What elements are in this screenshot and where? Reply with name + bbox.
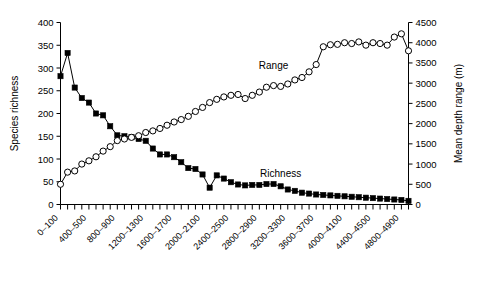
y-tick-label-right: 4000 bbox=[416, 37, 437, 48]
data-point-marker bbox=[349, 40, 355, 46]
data-point-marker bbox=[221, 94, 227, 100]
series-annotation-range: Range bbox=[259, 60, 289, 71]
data-point-marker bbox=[328, 193, 333, 198]
y-tick-label-left: 400 bbox=[38, 17, 54, 28]
data-point-marker bbox=[207, 99, 213, 105]
data-point-marker bbox=[150, 128, 156, 134]
data-point-marker bbox=[285, 187, 290, 192]
data-point-marker bbox=[370, 196, 375, 201]
data-point-marker bbox=[320, 44, 326, 50]
data-point-marker bbox=[278, 184, 283, 189]
x-tick-label: 400–500 bbox=[56, 213, 88, 245]
y-tick-label-right: 4500 bbox=[416, 17, 437, 28]
data-point-marker bbox=[143, 129, 149, 135]
species-richness-depth-range-chart: 0501001502002503003504000500100015002000… bbox=[0, 0, 479, 281]
data-point-marker bbox=[57, 181, 63, 187]
y-tick-label-left: 50 bbox=[43, 176, 54, 187]
data-point-marker bbox=[334, 41, 340, 47]
data-point-marker bbox=[256, 89, 262, 95]
y-tick-label-right: 3000 bbox=[416, 78, 437, 89]
data-point-marker bbox=[65, 169, 71, 175]
data-point-marker bbox=[363, 42, 369, 48]
data-point-marker bbox=[235, 182, 240, 187]
data-point-marker bbox=[164, 152, 169, 157]
data-point-marker bbox=[235, 91, 241, 97]
data-point-marker bbox=[264, 181, 269, 186]
data-point-marker bbox=[278, 83, 284, 89]
data-point-marker bbox=[101, 113, 106, 118]
y-tick-label-right: 500 bbox=[416, 179, 432, 190]
data-point-marker bbox=[207, 185, 212, 190]
y-tick-label-left: 150 bbox=[38, 131, 54, 142]
y-tick-label-right: 2000 bbox=[416, 118, 437, 129]
data-point-marker bbox=[299, 74, 305, 80]
data-point-marker bbox=[221, 176, 226, 181]
data-point-marker bbox=[405, 48, 411, 54]
data-point-marker bbox=[243, 183, 248, 188]
data-point-marker bbox=[313, 61, 319, 67]
y-tick-label-left: 250 bbox=[38, 85, 54, 96]
data-point-marker bbox=[341, 40, 347, 46]
data-point-marker bbox=[271, 181, 276, 186]
y-tick-label-left: 0 bbox=[48, 199, 53, 210]
data-point-marker bbox=[306, 191, 311, 196]
data-point-marker bbox=[306, 69, 312, 75]
y-tick-label-right: 0 bbox=[416, 199, 421, 210]
series-line-range bbox=[61, 34, 409, 184]
data-point-marker bbox=[185, 113, 191, 119]
data-point-marker bbox=[335, 193, 340, 198]
data-point-marker bbox=[199, 104, 205, 110]
data-point-marker bbox=[86, 158, 92, 164]
data-point-marker bbox=[136, 133, 142, 139]
data-point-marker bbox=[263, 84, 269, 90]
data-point-marker bbox=[250, 182, 255, 187]
data-point-marker bbox=[377, 40, 383, 46]
data-point-marker bbox=[214, 173, 219, 178]
data-point-marker bbox=[108, 124, 113, 129]
data-point-marker bbox=[377, 196, 382, 201]
data-point-marker bbox=[186, 166, 191, 171]
series-markers-richness bbox=[58, 50, 411, 203]
data-point-marker bbox=[257, 182, 262, 187]
data-point-marker bbox=[79, 161, 85, 167]
y-tick-label-left: 100 bbox=[38, 154, 54, 165]
data-point-marker bbox=[406, 198, 411, 203]
data-point-marker bbox=[171, 119, 177, 125]
data-point-marker bbox=[193, 166, 198, 171]
y-tick-label-right: 2500 bbox=[416, 98, 437, 109]
data-point-marker bbox=[370, 40, 376, 46]
data-point-marker bbox=[398, 31, 404, 37]
data-point-marker bbox=[384, 42, 390, 48]
data-point-marker bbox=[143, 138, 148, 143]
y-tick-label-right: 1000 bbox=[416, 159, 437, 170]
data-point-marker bbox=[65, 50, 70, 55]
data-point-marker bbox=[150, 146, 155, 151]
data-point-marker bbox=[192, 108, 198, 114]
data-point-marker bbox=[93, 154, 99, 160]
data-point-marker bbox=[72, 168, 78, 174]
data-point-marker bbox=[285, 81, 291, 87]
data-point-marker bbox=[58, 74, 63, 79]
data-point-marker bbox=[327, 42, 333, 48]
y-tick-label-left: 300 bbox=[38, 63, 54, 74]
data-point-marker bbox=[72, 85, 77, 90]
data-point-marker bbox=[128, 134, 134, 140]
data-point-marker bbox=[157, 152, 162, 157]
data-point-marker bbox=[363, 195, 368, 200]
chart-figure: 0501001502002503003504000500100015002000… bbox=[0, 0, 479, 281]
data-point-marker bbox=[107, 144, 113, 150]
data-point-marker bbox=[349, 194, 354, 199]
data-point-marker bbox=[214, 96, 220, 102]
y-axis-title-left: Species richness bbox=[9, 76, 20, 152]
series-annotation-richness: Richness bbox=[260, 168, 301, 179]
data-point-marker bbox=[172, 155, 177, 160]
data-point-marker bbox=[270, 82, 276, 88]
data-point-marker bbox=[100, 148, 106, 154]
data-point-marker bbox=[292, 188, 297, 193]
data-point-marker bbox=[356, 39, 362, 45]
data-point-marker bbox=[114, 138, 120, 144]
x-tick-label: 0–100 bbox=[35, 213, 60, 238]
data-point-marker bbox=[321, 192, 326, 197]
data-point-marker bbox=[228, 92, 234, 98]
y-tick-label-right: 1500 bbox=[416, 138, 437, 149]
